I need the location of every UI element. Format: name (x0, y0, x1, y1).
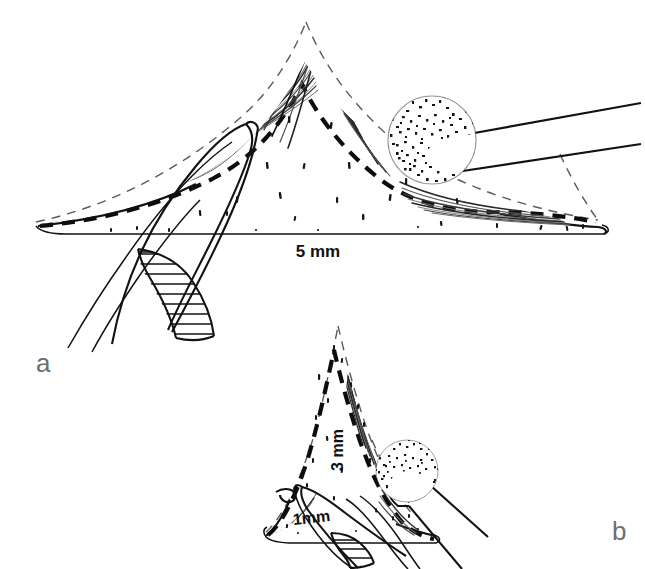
panel-a-letter: a (36, 348, 51, 378)
panel-b-height-label: 3 mm (329, 429, 346, 471)
figure-background (0, 0, 645, 569)
figure-illustration: .ink { fill:none; stroke:#121212; } .thi… (0, 0, 645, 569)
panel-a-scale-label: 5 mm (296, 242, 340, 261)
panel-b-letter: b (612, 516, 626, 546)
figure-root: .ink { fill:none; stroke:#121212; } .thi… (0, 0, 645, 569)
